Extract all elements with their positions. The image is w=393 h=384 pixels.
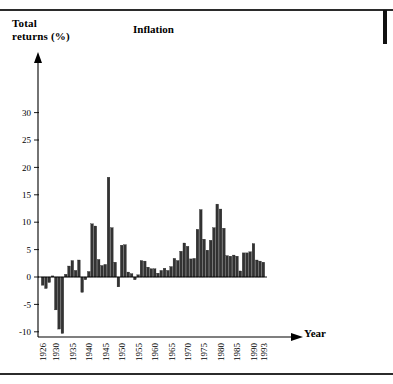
x-tick-label: 1940: [84, 343, 94, 362]
y-tick-label: 0: [27, 272, 32, 282]
bar: [143, 261, 146, 277]
bar: [196, 229, 199, 277]
x-tick-label: 1926: [38, 343, 48, 362]
x-tick-label: 1955: [134, 343, 144, 362]
x-tick-label: 1985: [232, 343, 242, 362]
bar: [226, 256, 229, 277]
bar: [55, 277, 58, 310]
bar: [153, 269, 156, 277]
bar: [229, 256, 232, 277]
bar: [140, 261, 143, 277]
bar: [223, 228, 226, 277]
x-tick-label: 1970: [183, 343, 193, 362]
bar: [239, 271, 242, 277]
bars-group: [38, 177, 267, 333]
bar: [246, 253, 249, 277]
bar: [114, 262, 117, 277]
bar: [74, 270, 77, 277]
bar: [81, 277, 84, 292]
bar: [199, 210, 202, 277]
bar: [249, 252, 252, 277]
y-tick-label: 15: [22, 190, 32, 200]
bar: [180, 251, 183, 277]
bar: [206, 250, 209, 277]
bar: [216, 204, 219, 277]
bar: [219, 209, 222, 277]
inflation-bar-chart: -10-5051015202530 1926193019351940194519…: [0, 0, 393, 384]
bar: [186, 246, 189, 277]
bar: [124, 245, 127, 277]
y-tick-label: 5: [27, 245, 32, 255]
bar: [71, 261, 74, 277]
bar: [111, 228, 114, 277]
bar: [252, 244, 255, 277]
y-tick-label: 25: [22, 135, 32, 145]
bar: [147, 267, 150, 277]
bar: [167, 270, 170, 277]
bar: [48, 277, 51, 282]
y-tick-label: -10: [19, 327, 31, 337]
bar: [203, 239, 206, 277]
y-tick-label: 10: [22, 217, 32, 227]
x-tick-label: 1935: [68, 343, 78, 362]
bar: [41, 277, 44, 285]
bar: [97, 259, 100, 277]
x-axis: 1926193019351940194519501955196019651970…: [38, 333, 303, 361]
bar: [190, 259, 193, 277]
bar: [232, 255, 235, 277]
bar: [173, 258, 176, 277]
bar: [209, 240, 212, 277]
bar: [107, 177, 110, 277]
bar: [176, 261, 179, 277]
bar: [104, 264, 107, 277]
x-tick-label: 1945: [101, 343, 111, 362]
bar: [87, 272, 90, 277]
y-axis: -10-5051015202530: [19, 52, 42, 337]
chart-svg: -10-5051015202530 1926193019351940194519…: [0, 0, 393, 384]
bar: [68, 266, 71, 277]
x-tick-label: 1990: [249, 343, 259, 362]
bar: [58, 277, 61, 329]
y-tick-label: 20: [22, 163, 32, 173]
bar: [242, 253, 245, 277]
bar: [193, 258, 196, 277]
x-tick-label: 1980: [216, 343, 226, 362]
bar: [130, 274, 133, 277]
bar: [150, 269, 153, 277]
bar: [262, 262, 265, 277]
bar: [101, 265, 104, 277]
bar: [160, 270, 163, 277]
bar: [94, 226, 97, 277]
bar: [183, 243, 186, 277]
bar: [45, 277, 48, 289]
y-tick-label: 30: [22, 108, 32, 118]
x-tick-label: 1993: [259, 343, 269, 362]
y-tick-label: -5: [24, 300, 32, 310]
x-tick-label: 1960: [150, 343, 160, 362]
x-axis-arrowhead: [291, 333, 303, 341]
bar: [61, 277, 64, 333]
bar: [117, 277, 120, 287]
bar: [127, 272, 130, 277]
bar: [213, 228, 216, 277]
bar: [170, 267, 173, 277]
x-tick-label: 1975: [199, 343, 209, 362]
x-tick-label: 1930: [51, 343, 61, 362]
bar: [78, 260, 81, 277]
x-tick-label: 1950: [117, 343, 127, 362]
bar: [259, 261, 262, 277]
bar: [91, 224, 94, 277]
x-tick-label: 1965: [167, 343, 177, 362]
bar: [236, 256, 239, 277]
y-axis-arrowhead: [34, 52, 42, 63]
bar: [255, 260, 258, 277]
bar: [157, 273, 160, 277]
bar: [120, 245, 123, 277]
bar: [163, 268, 166, 277]
